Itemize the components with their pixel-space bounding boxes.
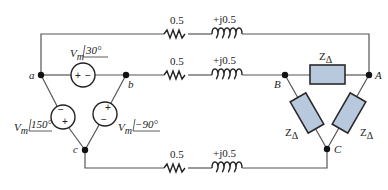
source-delta: + − Vm 30° − + Vm 150° + − Vm −90° bbox=[14, 44, 160, 150]
impedance-AB bbox=[310, 65, 345, 84]
inductor-icon bbox=[212, 69, 242, 79]
source-bc-angle: −90° bbox=[135, 118, 158, 130]
inductor-icon bbox=[212, 162, 242, 172]
svg-text:−: − bbox=[58, 104, 64, 115]
node-A-label: A bbox=[374, 69, 382, 81]
resistor-icon bbox=[164, 30, 185, 38]
source-ab-angle: 30° bbox=[85, 44, 102, 56]
line-3-reactance-label: +j0.5 bbox=[213, 147, 237, 159]
node-a-label: a bbox=[29, 69, 35, 81]
node-B-label: B bbox=[274, 78, 281, 90]
line-2-reactance-label: +j0.5 bbox=[213, 54, 237, 66]
svg-text:ZΔ: ZΔ bbox=[360, 126, 374, 141]
svg-text:−: − bbox=[85, 70, 91, 81]
voltage-source-ab: + − Vm 30° bbox=[70, 44, 108, 87]
impedance-BC bbox=[290, 93, 324, 133]
node-C bbox=[324, 146, 330, 152]
node-C-label: C bbox=[334, 143, 342, 155]
svg-text:Vm: Vm bbox=[14, 121, 28, 136]
svg-text:+: + bbox=[62, 116, 68, 127]
line-c-C: 0.5 +j0.5 bbox=[85, 147, 327, 172]
inductor-icon bbox=[212, 28, 242, 38]
voltage-source-ca: − + Vm 150° bbox=[14, 104, 75, 136]
load-delta: ZΔ ZΔ ZΔ bbox=[285, 50, 374, 149]
line-1-resistance-label: 0.5 bbox=[170, 14, 184, 26]
svg-text:ZΔ: ZΔ bbox=[319, 50, 333, 65]
node-c-label: c bbox=[73, 143, 78, 155]
line-2-resistance-label: 0.5 bbox=[170, 55, 184, 67]
voltage-source-bc: + − Vm −90° bbox=[93, 102, 160, 136]
svg-text:ZΔ: ZΔ bbox=[285, 126, 299, 141]
node-c bbox=[82, 147, 88, 153]
node-A bbox=[366, 72, 372, 78]
svg-text:+: + bbox=[105, 102, 111, 113]
source-ca-angle: 150° bbox=[31, 118, 53, 130]
svg-text:Vm: Vm bbox=[118, 121, 132, 136]
svg-text:−: − bbox=[101, 114, 107, 125]
svg-text:+: + bbox=[75, 70, 81, 81]
resistor-icon bbox=[164, 71, 185, 79]
resistor-icon bbox=[164, 164, 185, 172]
svg-text:Vm: Vm bbox=[70, 47, 84, 62]
line-3-resistance-label: 0.5 bbox=[170, 148, 184, 160]
line-1-reactance-label: +j0.5 bbox=[213, 13, 237, 25]
node-B bbox=[282, 72, 288, 78]
node-a bbox=[38, 72, 44, 78]
node-b-label: b bbox=[128, 78, 134, 90]
three-phase-circuit-diagram: 0.5 +j0.5 0.5 +j0.5 0.5 +j0.5 + − bbox=[0, 0, 388, 190]
